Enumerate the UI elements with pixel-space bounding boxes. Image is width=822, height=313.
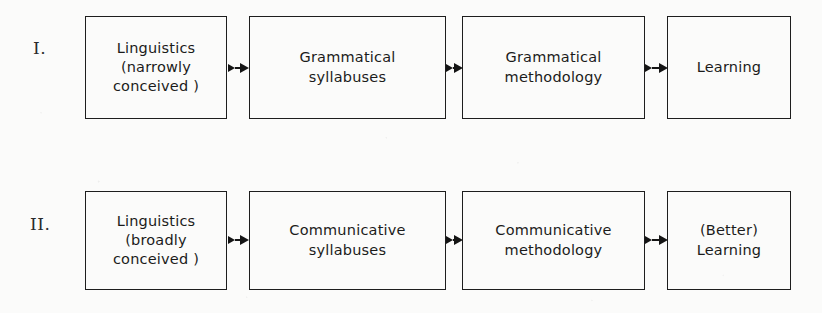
node-grammatical-methodology: Grammatical methodology [462,16,645,119]
row-numeral-i: I. [33,40,46,57]
arrow-grammatical-methodology-to-learning [645,62,668,74]
arrow-tail-icon [446,64,453,72]
node-linguistics-broad: Linguistics (broadly conceived ) [85,191,227,290]
row-numeral-ii: II. [30,216,50,233]
arrow-grammatical-syllabuses-to-grammatical-methodology [446,62,463,74]
node-communicative-methodology: Communicative methodology [462,191,645,290]
node-grammatical-syllabuses: Grammatical syllabuses [249,16,446,119]
arrow-tail-icon [228,236,235,244]
node-better-learning-label: (Better) Learning [693,221,766,260]
arrowhead-icon [240,63,249,73]
arrowhead-icon [240,235,249,245]
arrow-tail-icon [446,236,453,244]
node-grammatical-syllabuses-label: Grammatical syllabuses [295,48,399,87]
arrow-communicative-methodology-to-better-learning [645,234,668,246]
node-learning: Learning [667,16,791,119]
node-linguistics-narrow-label: Linguistics (narrowly conceived ) [109,39,203,97]
node-learning-label: Learning [693,58,766,77]
arrow-tail-icon [228,64,235,72]
node-communicative-syllabuses-label: Communicative syllabuses [285,221,409,260]
arrow-tail-icon [645,236,652,244]
node-linguistics-broad-label: Linguistics (broadly conceived ) [109,212,203,270]
arrow-linguistics-narrow-to-grammatical-syllabuses [228,62,249,74]
node-communicative-syllabuses: Communicative syllabuses [249,191,446,290]
figure-canvas: I. Linguistics (narrowly conceived ) Gra… [0,0,822,313]
node-communicative-methodology-label: Communicative methodology [491,221,615,260]
node-linguistics-narrow: Linguistics (narrowly conceived ) [85,16,227,119]
arrow-tail-icon [645,64,652,72]
arrow-communicative-syllabuses-to-communicative-methodology [446,234,463,246]
arrow-linguistics-broad-to-communicative-syllabuses [228,234,249,246]
node-better-learning: (Better) Learning [667,191,791,290]
node-grammatical-methodology-label: Grammatical methodology [501,48,607,87]
